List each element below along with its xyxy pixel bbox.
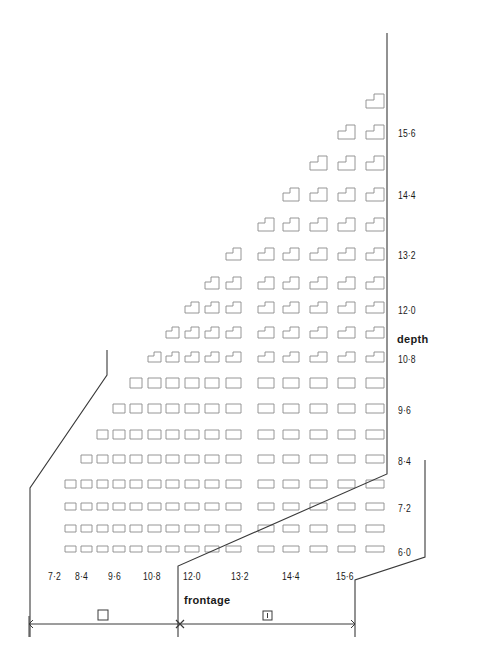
plot-cell: [310, 248, 327, 260]
plot-cell: [258, 503, 274, 510]
plot-cell: [283, 302, 299, 313]
plot-cell: [338, 525, 355, 532]
plot-cell: [283, 378, 299, 388]
plot-cell: [366, 404, 384, 413]
plot-cell: [148, 546, 161, 552]
plot-cell: [205, 430, 219, 439]
plot-cell: [113, 546, 125, 552]
plot-cell: [366, 503, 384, 510]
plot-cell: [258, 480, 274, 488]
plot-cell: [258, 455, 274, 463]
plot-cell: [226, 430, 241, 439]
plot-cell: [148, 525, 161, 532]
plot-cell: [113, 480, 125, 488]
plot-cell: [226, 404, 241, 413]
frontage-tick-label: 7·2: [48, 571, 61, 582]
plot-cell: [258, 248, 274, 260]
frontage-tick-label: 8·4: [75, 571, 88, 582]
plot-cell: [166, 546, 179, 552]
plot-cell: [310, 430, 327, 439]
plot-cell: [310, 546, 327, 552]
plot-cell: [65, 480, 76, 488]
plot-cell: [338, 455, 355, 463]
plot-cell: [205, 503, 219, 510]
plot-cell: [185, 525, 199, 532]
plot-cell: [166, 404, 179, 413]
plot-cell: [130, 546, 142, 552]
depth-axis-title: depth: [397, 334, 428, 345]
plot-cell: [97, 546, 108, 552]
plot-cell: [338, 430, 355, 439]
plot-cell: [65, 546, 76, 552]
plot-cell: [338, 156, 355, 170]
plot-cell: [366, 327, 384, 338]
plot-cell: [166, 525, 179, 532]
plot-cell: [338, 218, 355, 231]
plot-cell: [338, 327, 355, 338]
plot-cell: [226, 352, 241, 362]
plot-cell: [166, 378, 179, 388]
plot-cell: [185, 546, 199, 552]
plot-cell: [148, 455, 161, 463]
plot-cell: [166, 480, 179, 488]
plot-cell: [185, 327, 199, 338]
plot-cell: [130, 430, 142, 439]
plot-cell: [258, 327, 274, 338]
plot-cell: [310, 327, 327, 338]
plot-cell: [205, 327, 219, 338]
depth-tick-label: 13·2: [398, 250, 416, 261]
plot-cell: [366, 546, 384, 552]
plot-cell: [81, 503, 92, 510]
plot-cell: [205, 525, 219, 532]
square-plot-symbol-icon: [98, 610, 108, 620]
frontage-tick-label: 12·0: [183, 571, 201, 582]
frontage-tick-label: 9·6: [108, 571, 121, 582]
plot-cell: [283, 188, 299, 201]
plot-cell: [148, 378, 161, 388]
plot-cell: [97, 455, 108, 463]
plot-cell: [226, 455, 241, 463]
plot-cell: [81, 480, 92, 488]
plot-cell: [366, 352, 384, 362]
plot-cell: [205, 404, 219, 413]
plot-cell: [226, 327, 241, 338]
inner-right-boundary: [355, 460, 425, 637]
plot-cell: [366, 480, 384, 488]
plot-cell: [226, 302, 241, 313]
plot-cell: [366, 188, 384, 201]
plot-cell: [113, 455, 125, 463]
plot-cell: [130, 525, 142, 532]
plot-cell: [258, 378, 274, 388]
plot-cell: [65, 525, 76, 532]
plot-cell: [130, 404, 142, 413]
plot-cell: [283, 546, 299, 552]
plot-cell: [310, 525, 327, 532]
frontage-tick-label: 10·8: [143, 571, 161, 582]
plot-cell: [258, 525, 274, 532]
plot-cell: [338, 188, 355, 201]
plot-cell: [283, 503, 299, 510]
plot-cell: [338, 378, 355, 388]
plot-cell: [366, 156, 384, 170]
plot-cell: [338, 480, 355, 488]
plot-cell: [338, 302, 355, 313]
plot-cell: [366, 94, 384, 108]
plot-cell: [185, 352, 199, 362]
plot-cell: [148, 503, 161, 510]
plot-cell: [366, 125, 384, 139]
plot-cell: [166, 503, 179, 510]
plot-cell: [205, 378, 219, 388]
plot-cell: [185, 430, 199, 439]
plot-cell: [148, 480, 161, 488]
plot-cell: [366, 248, 384, 260]
plot-cell: [226, 277, 241, 289]
plot-cell: [338, 277, 355, 289]
plot-cell: [185, 404, 199, 413]
plot-cell: [113, 404, 125, 413]
plot-cell: [205, 480, 219, 488]
plot-cell: [226, 480, 241, 488]
plot-cell: [366, 430, 384, 439]
depth-tick-label: 14·4: [398, 190, 416, 201]
depth-tick-label: 15·6: [398, 128, 416, 139]
plot-cell: [283, 480, 299, 488]
